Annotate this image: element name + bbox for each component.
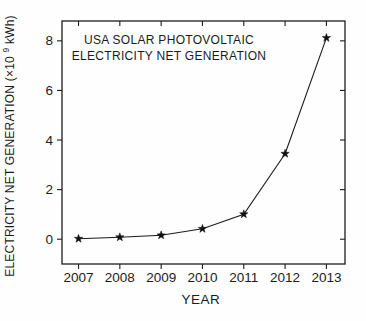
- y-tick-label: 4: [45, 133, 53, 148]
- data-point-marker: [281, 149, 289, 157]
- chart-figure: 200720082009201020112012201302468 USA SO…: [0, 0, 366, 321]
- data-point-marker: [240, 210, 248, 218]
- chart-title-line-1: USA SOLAR PHOTOVOLTAIC: [84, 33, 254, 47]
- data-point-marker: [322, 33, 330, 41]
- y-tick-label: 8: [45, 33, 53, 48]
- y-axis-label: ELECTRICITY NET GENERATION (×10 9 kWh): [0, 15, 17, 276]
- x-axis-label: YEAR: [182, 292, 221, 307]
- x-tick-label: 2008: [105, 270, 135, 285]
- data-line: [79, 38, 327, 239]
- data-point-marker: [116, 233, 124, 241]
- x-tick-label: 2013: [311, 270, 341, 285]
- x-tick-label: 2007: [64, 270, 94, 285]
- y-axis-label-prefix: ELECTRICITY NET GENERATION (×10: [3, 56, 17, 277]
- x-tick-label: 2009: [146, 270, 176, 285]
- data-point-marker: [74, 234, 82, 242]
- y-tick-label: 2: [45, 182, 53, 197]
- data-point-marker: [198, 224, 206, 232]
- y-tick-label: 6: [45, 83, 53, 98]
- y-axis-label-suffix: kWh): [3, 15, 17, 44]
- y-axis-label-superscript: 9: [1, 48, 11, 53]
- y-tick-label: 0: [45, 232, 53, 247]
- x-tick-label: 2012: [270, 270, 300, 285]
- x-tick-label: 2010: [187, 270, 217, 285]
- chart-title-line-2: ELECTRICITY NET GENERATION: [72, 49, 267, 63]
- solar-pv-line-chart: 200720082009201020112012201302468 USA SO…: [0, 0, 366, 321]
- data-point-marker: [157, 231, 165, 239]
- x-tick-label: 2011: [229, 270, 258, 285]
